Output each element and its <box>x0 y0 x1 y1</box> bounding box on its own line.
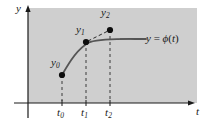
point-label-y0-subscript: 0 <box>56 61 60 70</box>
point-label-y0: y0 <box>51 57 60 69</box>
data-point-y0 <box>59 72 65 78</box>
data-point-y1 <box>83 39 89 45</box>
y-axis-arrowhead <box>25 5 30 12</box>
euler-method-figure: y t y0 y1 y2 t0 t1 t2 y = ϕ(t) <box>0 0 207 131</box>
y-axis-label: y <box>16 3 21 14</box>
tick-label-t0-subscript: 0 <box>60 111 64 120</box>
tick-label-t0: t0 <box>57 107 64 119</box>
curve-label-equals: = <box>151 32 163 44</box>
tick-label-t1-subscript: 1 <box>84 111 88 120</box>
t-axis-label: t <box>196 106 199 117</box>
data-point-y2 <box>107 27 113 33</box>
tick-label-t2: t2 <box>105 107 112 119</box>
figure-vector-layer <box>0 0 207 131</box>
point-label-y1-subscript: 1 <box>81 28 85 37</box>
solution-curve <box>62 39 146 75</box>
tick-label-t2-subscript: 2 <box>108 111 112 120</box>
tick-label-t1: t1 <box>81 107 88 119</box>
curve-equation-label: y = ϕ(t) <box>146 33 179 44</box>
point-label-y2: y2 <box>101 7 110 19</box>
curve-label-paren-close: ) <box>175 32 179 44</box>
t-axis-arrowhead <box>188 100 195 105</box>
point-label-y1: y1 <box>76 24 85 36</box>
point-label-y2-subscript: 2 <box>106 11 110 20</box>
